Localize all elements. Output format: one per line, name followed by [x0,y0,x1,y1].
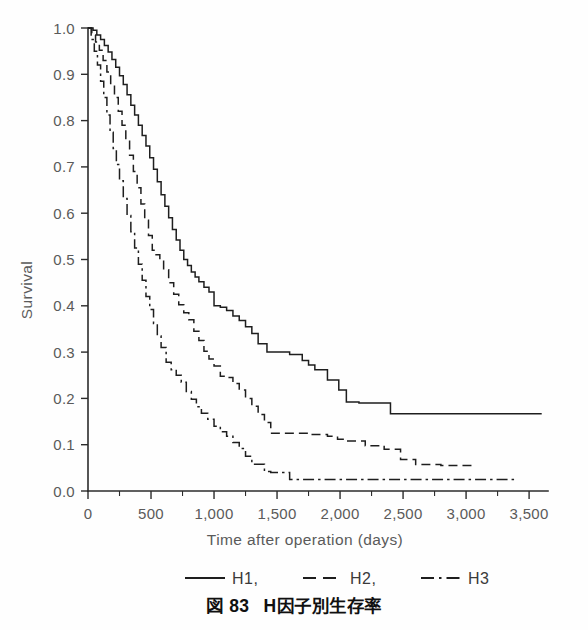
legend-label-h3: H3 [468,570,489,587]
y-axis-ticks [81,28,88,491]
caption-text: H因子別生存率 [264,596,382,616]
series-line-h1 [88,28,542,414]
x-tick-label: 3,500 [510,505,549,522]
legend-label-h1: H1, [232,570,258,587]
y-tick-label: 0.8 [53,112,75,129]
y-tick-label: 0.6 [53,205,75,222]
y-tick-label: 0.4 [53,297,75,314]
y-tick-label: 0.9 [53,66,75,83]
x-tick-label: 500 [138,505,164,522]
y-tick-label: 0.0 [53,483,75,500]
x-tick-label: 0 [84,505,93,522]
x-tick-label: 3,000 [447,505,486,522]
x-tick-label: 2,500 [384,505,423,522]
caption-number: 図 83 [206,596,249,616]
x-tick-label: 1,500 [258,505,297,522]
series-line-h2 [88,28,472,466]
y-tick-label: 0.5 [53,251,75,268]
y-tick-label: 0.3 [53,344,75,361]
y-axis-title: Survival [18,261,35,319]
figure-caption: 図 83H因子別生存率 [0,592,588,617]
x-axis-tick-labels: 05001,0001,5002,0002,5003,0003,500 [84,505,549,522]
legend-label-h2: H2, [350,570,376,587]
y-tick-label: 1.0 [53,20,75,37]
y-tick-label: 0.7 [53,158,75,175]
series-line-h3 [88,28,516,481]
y-tick-label: 0.2 [53,390,75,407]
y-tick-label: 0.1 [53,436,75,453]
x-tick-label: 1,000 [195,505,234,522]
figure-container: 0.00.10.20.30.40.50.60.70.80.91.0 05001,… [0,0,588,630]
x-axis-title: Time after operation (days) [207,531,403,548]
survival-chart: 0.00.10.20.30.40.50.60.70.80.91.0 05001,… [0,0,588,588]
x-tick-label: 2,000 [321,505,360,522]
y-axis-tick-labels: 0.00.10.20.30.40.50.60.70.80.91.0 [53,20,75,500]
legend: H1,H2,H3 [185,570,489,587]
